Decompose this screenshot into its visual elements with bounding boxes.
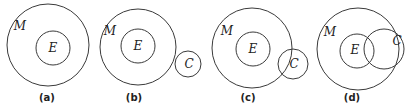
set-label-e: E bbox=[248, 42, 258, 56]
set-label-e: E bbox=[48, 41, 58, 55]
set-label-e: E bbox=[350, 43, 360, 57]
panel-caption: (c) bbox=[240, 92, 255, 103]
set-label-c: C bbox=[184, 57, 193, 71]
set-label-m: M bbox=[13, 19, 27, 33]
set-label-e: E bbox=[133, 39, 143, 53]
panel-b: MEC(b) bbox=[100, 9, 201, 103]
panel-a: ME(a) bbox=[7, 4, 89, 103]
panel-caption: (a) bbox=[39, 92, 55, 103]
set-label-m: M bbox=[103, 24, 117, 38]
panel-caption: (d) bbox=[344, 92, 360, 103]
set-label-c: C bbox=[392, 34, 401, 48]
panel-caption: (b) bbox=[126, 92, 142, 103]
set-label-m: M bbox=[323, 25, 337, 39]
set-label-c: C bbox=[289, 57, 298, 71]
venn-diagram-figure: ME(a)MEC(b)MEC(c)MEC(d) bbox=[0, 0, 415, 110]
panel-c: MEC(c) bbox=[212, 8, 308, 103]
panel-d: MEC(d) bbox=[317, 8, 404, 103]
set-label-m: M bbox=[220, 24, 234, 38]
